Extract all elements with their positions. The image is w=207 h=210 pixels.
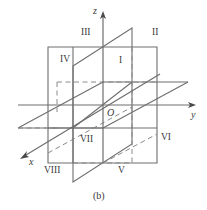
y-axis-label: y bbox=[191, 110, 195, 120]
octant-label-II: II bbox=[152, 28, 158, 38]
octant-figure: z y x O I II III IV V VI VII VIII (b) bbox=[0, 0, 207, 210]
origin-label: O bbox=[107, 108, 114, 118]
octant-label-III: III bbox=[81, 28, 91, 38]
z-axis-label: z bbox=[93, 6, 97, 16]
hidden-line-x-rear bbox=[48, 107, 132, 153]
octant-label-IV: IV bbox=[60, 55, 70, 65]
octant-label-V: V bbox=[118, 166, 125, 176]
octant-label-I: I bbox=[119, 56, 122, 66]
octant-label-VII: VII bbox=[80, 135, 93, 145]
octant-label-VI: VI bbox=[161, 133, 171, 143]
hidden-line-lower-slant bbox=[103, 134, 157, 163]
figure-caption: (b) bbox=[93, 190, 105, 201]
x-axis-arrow-icon bbox=[20, 151, 29, 159]
octant-label-VIII: VIII bbox=[44, 166, 60, 176]
x-axis-label: x bbox=[29, 157, 33, 167]
octant-diagram-svg bbox=[0, 0, 207, 210]
